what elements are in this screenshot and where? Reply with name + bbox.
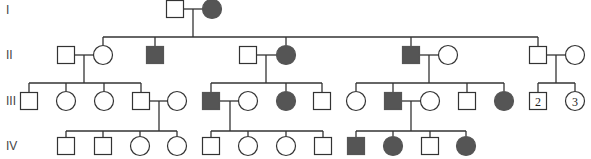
affected-female-IV-10 <box>384 137 403 156</box>
female-circle-icon <box>168 137 187 156</box>
female-circle-icon <box>495 92 514 111</box>
female-circle-icon <box>239 92 258 111</box>
generation-labels: IIIIIIIV <box>6 3 17 153</box>
unaffected-male-III-4 <box>133 93 150 110</box>
male-square-icon <box>315 138 332 155</box>
sibling-count-label: 3 <box>572 95 578 109</box>
male-square-icon <box>203 93 220 110</box>
female-circle-icon <box>439 46 458 65</box>
unaffected-female-IV-6 <box>239 137 258 156</box>
unaffected-male-IV-8 <box>315 138 332 155</box>
affected-female-IV-12 <box>457 137 476 156</box>
unaffected-male-IV-2 <box>95 138 112 155</box>
affected-male-IV-9 <box>348 138 365 155</box>
male-square-icon <box>348 138 365 155</box>
generation-label: I <box>6 3 9 17</box>
male-square-icon <box>167 1 184 18</box>
male-square-icon <box>133 93 150 110</box>
male-square-icon <box>314 93 331 110</box>
affected-male-II-6 <box>403 47 420 64</box>
female-circle-icon <box>457 137 476 156</box>
unaffected-male-III-13 <box>459 93 476 110</box>
affected-female-I-2 <box>203 0 222 19</box>
unaffected-male-III-1 <box>21 93 38 110</box>
unaffected-female-III-5 <box>168 92 187 111</box>
generation-label: II <box>6 48 13 62</box>
male-square-icon <box>240 47 257 64</box>
male-square-icon <box>385 93 402 110</box>
unaffected-male-III-9 <box>314 93 331 110</box>
unaffected-male-II-8 <box>530 47 547 64</box>
affected-male-III-6 <box>203 93 220 110</box>
male-square-icon <box>58 138 75 155</box>
sibling-count-label: 2 <box>535 95 541 109</box>
male-square-icon <box>459 93 476 110</box>
male-square-icon <box>422 138 439 155</box>
unaffected-female-III-12 <box>421 92 440 111</box>
affected-female-III-14 <box>495 92 514 111</box>
male-square-icon <box>58 47 75 64</box>
female-circle-icon <box>94 46 113 65</box>
unaffected-female-IV-7 <box>277 137 296 156</box>
pedigree-chart: IIIIIIIV 23 <box>0 0 591 159</box>
male-square-icon <box>203 138 220 155</box>
affected-male-III-11 <box>385 93 402 110</box>
unaffected-female-II-9 <box>566 46 585 65</box>
unaffected-female-III-7 <box>239 92 258 111</box>
unaffected-female-IV-4 <box>168 137 187 156</box>
unaffected-female-II-7 <box>439 46 458 65</box>
unaffected-female-III-3 <box>95 92 114 111</box>
male-square-icon <box>21 93 38 110</box>
unaffected-male-IV-1 <box>58 138 75 155</box>
female-circle-icon <box>168 92 187 111</box>
unaffected-female-III-2 <box>57 92 76 111</box>
affected-male-II-3 <box>147 47 164 64</box>
male-square-icon <box>403 47 420 64</box>
female-circle-icon <box>277 92 296 111</box>
male-square-icon <box>530 47 547 64</box>
female-circle-icon <box>57 92 76 111</box>
unaffected-male-III-15: 2 <box>530 93 547 110</box>
unaffected-male-II-1 <box>58 47 75 64</box>
male-square-icon <box>147 47 164 64</box>
affected-female-II-5 <box>277 46 296 65</box>
female-circle-icon <box>421 92 440 111</box>
female-circle-icon <box>203 0 222 19</box>
generation-label: III <box>6 94 16 108</box>
female-circle-icon <box>95 92 114 111</box>
female-circle-icon <box>347 92 366 111</box>
unaffected-male-I-1 <box>167 1 184 18</box>
male-square-icon <box>95 138 112 155</box>
female-circle-icon <box>566 46 585 65</box>
unaffected-female-III-10 <box>347 92 366 111</box>
relationship-lines <box>29 9 575 137</box>
female-circle-icon <box>277 46 296 65</box>
female-circle-icon <box>239 137 258 156</box>
generation-label: IV <box>6 139 17 153</box>
unaffected-female-II-2 <box>94 46 113 65</box>
affected-female-III-8 <box>277 92 296 111</box>
unaffected-male-IV-11 <box>422 138 439 155</box>
female-circle-icon <box>277 137 296 156</box>
female-circle-icon <box>131 137 150 156</box>
unaffected-male-II-4 <box>240 47 257 64</box>
unaffected-female-III-16: 3 <box>566 92 585 111</box>
female-circle-icon <box>384 137 403 156</box>
individuals: 23 <box>21 0 585 156</box>
unaffected-female-IV-3 <box>131 137 150 156</box>
unaffected-male-IV-5 <box>203 138 220 155</box>
